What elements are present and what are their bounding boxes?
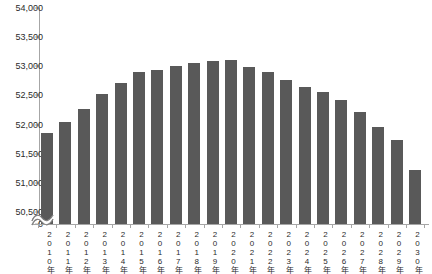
bar — [243, 67, 255, 224]
y-tick-label: 53,000 — [15, 61, 43, 71]
x-tick-mark — [204, 224, 205, 228]
y-tick-label: 53,500 — [15, 32, 43, 42]
x-tick-mark — [148, 224, 149, 228]
x-tick-label: 2021年 — [243, 230, 255, 274]
bar — [133, 72, 145, 224]
bar — [188, 63, 200, 224]
x-tick-label: 2011年 — [59, 230, 71, 274]
x-tick-label: 2013年 — [96, 230, 108, 274]
bar — [170, 66, 182, 224]
x-tick-mark — [332, 224, 333, 228]
x-tick-label: 2027年 — [354, 230, 366, 274]
bar — [41, 133, 53, 224]
x-tick-label: 2025年 — [317, 230, 329, 274]
x-tick-label: 2018年 — [188, 230, 200, 274]
bar — [59, 122, 71, 224]
x-tick-mark — [93, 224, 94, 228]
x-tick-label: 2024年 — [299, 230, 311, 274]
bar — [280, 80, 292, 224]
x-tick-label: 2014年 — [115, 230, 127, 274]
bar — [409, 170, 421, 224]
x-tick-mark — [388, 224, 389, 228]
bar — [207, 61, 219, 224]
bar — [335, 100, 347, 224]
x-tick-mark — [130, 224, 131, 228]
x-tick-label: 2026年 — [335, 230, 347, 274]
x-tick-mark — [296, 224, 297, 228]
x-tick-mark — [75, 224, 76, 228]
bar — [372, 127, 384, 224]
bar — [317, 92, 329, 224]
bar — [391, 140, 403, 224]
bar — [225, 60, 237, 224]
x-tick-mark — [369, 224, 370, 228]
y-tick-label: 51,500 — [15, 149, 43, 159]
x-tick-label: 2030年 — [409, 230, 421, 274]
x-tick-label: 2012年 — [78, 230, 90, 274]
bar — [262, 72, 274, 224]
bar — [78, 109, 90, 224]
x-tick-mark — [314, 224, 315, 228]
x-tick-label: 2020年 — [225, 230, 237, 274]
x-tick-label: 2029年 — [391, 230, 403, 274]
x-tick-mark — [38, 224, 39, 228]
x-tick-label: 2022年 — [262, 230, 274, 274]
x-tick-mark — [406, 224, 407, 228]
x-tick-label: 2017年 — [170, 230, 182, 274]
x-tick-label: 2015年 — [133, 230, 145, 274]
y-tick-label: 52,000 — [15, 120, 43, 130]
x-tick-label: 2010年 — [41, 230, 53, 274]
x-tick-mark — [185, 224, 186, 228]
x-tick-mark — [240, 224, 241, 228]
bar — [151, 70, 163, 224]
x-tick-mark — [167, 224, 168, 228]
x-tick-mark — [56, 224, 57, 228]
x-tick-mark — [424, 224, 425, 228]
x-tick-mark — [277, 224, 278, 228]
x-tick-label: 2028年 — [372, 230, 384, 274]
bar — [354, 112, 366, 224]
y-tick-label: 54,000 — [15, 3, 43, 13]
x-tick-mark — [112, 224, 113, 228]
y-tick-label: 51,000 — [15, 178, 43, 188]
x-tick-label: 2019年 — [207, 230, 219, 274]
y-tick-label: 50,500 — [15, 207, 43, 217]
x-tick-label: 2023年 — [280, 230, 292, 274]
x-tick-mark — [222, 224, 223, 228]
x-tick-mark — [351, 224, 352, 228]
x-tick-label: 2016年 — [151, 230, 163, 274]
bar — [115, 83, 127, 224]
x-tick-mark — [259, 224, 260, 228]
y-tick-label: 52,500 — [15, 90, 43, 100]
bar — [299, 87, 311, 224]
bar — [96, 94, 108, 224]
